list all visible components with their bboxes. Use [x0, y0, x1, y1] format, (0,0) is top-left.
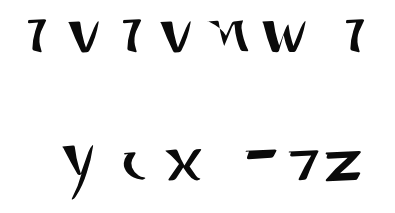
page-background	[0, 0, 395, 213]
calligraphy-artwork	[0, 0, 395, 213]
calligraphy-canvas	[0, 0, 395, 213]
